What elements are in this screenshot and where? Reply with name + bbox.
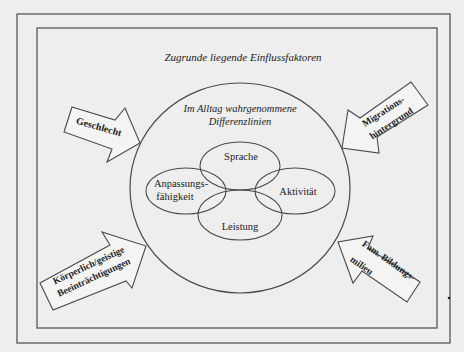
label-aktivitaet: Aktivität bbox=[279, 186, 316, 197]
circle-title-line2: Differenzlinien bbox=[208, 116, 272, 127]
arrow-migrationshintergrund: Migrations- hintergrund bbox=[342, 82, 428, 153]
influence-factors-diagram: Zugrunde liegende Einflussfaktoren Im Al… bbox=[0, 0, 464, 352]
arrow-geschlecht-shape bbox=[64, 107, 140, 162]
label-leistung: Leistung bbox=[222, 221, 259, 232]
ellipse-leistung bbox=[198, 190, 282, 240]
arrow-beeintraechtigungen: Körperlich/geistige Beeinträchtigungen bbox=[40, 232, 146, 310]
circle-title-line1: Im Alltag wahrgenommene bbox=[182, 103, 296, 114]
diagram-title: Zugrunde liegende Einflussfaktoren bbox=[164, 51, 322, 63]
label-sprache: Sprache bbox=[224, 151, 258, 162]
print-speck bbox=[448, 297, 451, 300]
ellipse-sprache bbox=[200, 142, 280, 190]
arrow-geschlecht: Geschlecht bbox=[64, 107, 140, 162]
arrow-beeintraechtigungen-shape bbox=[40, 232, 146, 310]
label-faehigkeit: fähigkeit bbox=[156, 191, 193, 202]
label-anpassungs: Anpassungs- bbox=[154, 178, 209, 189]
arrow-bildungsmilieu: Fam. Bildungs- milieu bbox=[338, 236, 420, 302]
arrow-migrationshintergrund-shape bbox=[342, 82, 428, 153]
